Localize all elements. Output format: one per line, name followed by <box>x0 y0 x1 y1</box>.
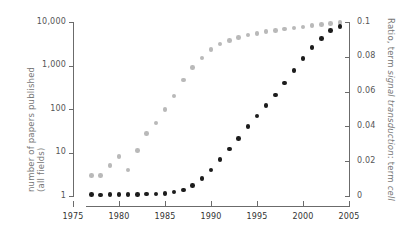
x-axis-tick-label: 2000 <box>291 212 315 221</box>
data-point <box>98 193 103 198</box>
data-point <box>154 192 159 197</box>
y-axis-right-tick-label: 0 <box>357 191 362 200</box>
y-axis-right-title-part-c: : term <box>386 156 396 186</box>
data-point <box>144 131 149 136</box>
data-point <box>328 28 333 33</box>
data-point <box>338 24 343 29</box>
data-point <box>273 93 278 98</box>
y-axis-right-tick <box>345 22 350 23</box>
data-point <box>255 31 260 36</box>
data-point <box>319 36 324 41</box>
data-point <box>126 192 131 197</box>
data-point <box>218 42 223 47</box>
data-point <box>227 38 232 43</box>
data-point <box>89 192 94 197</box>
data-point <box>236 35 241 40</box>
data-point <box>310 45 315 50</box>
data-point <box>319 22 324 27</box>
x-axis-tick <box>211 201 212 207</box>
x-axis-tick-label: 1990 <box>199 212 223 221</box>
data-point <box>227 147 232 152</box>
y-axis-left-title: number of papers published <box>26 12 36 192</box>
data-point <box>246 33 251 38</box>
data-point <box>310 23 315 28</box>
chart-figure: 1101001,00010,000number of papers publis… <box>0 0 419 237</box>
x-axis-tick <box>257 201 258 207</box>
x-axis-tick <box>349 201 350 207</box>
data-point <box>117 154 122 159</box>
data-point <box>328 21 333 26</box>
data-point <box>209 47 214 52</box>
y-axis-left-tick-label: 1,000 <box>42 60 66 69</box>
data-point <box>181 78 186 83</box>
data-point <box>218 157 223 162</box>
y-axis-left-tick-label: 10,000 <box>37 17 66 26</box>
y-axis-left-tick-label: 100 <box>50 104 66 113</box>
data-point <box>200 176 205 181</box>
data-point <box>292 68 297 73</box>
data-point <box>190 183 195 188</box>
data-point <box>154 121 159 126</box>
data-point <box>264 29 269 34</box>
y-axis-right <box>349 22 350 197</box>
data-point <box>255 114 260 119</box>
y-axis-left-tick <box>69 22 74 23</box>
data-point <box>108 192 113 197</box>
y-axis-right-tick <box>345 161 350 162</box>
data-point <box>282 81 287 86</box>
y-axis-right-tick-label: 0.02 <box>357 156 376 165</box>
data-point <box>117 192 122 197</box>
y-axis-left-tick <box>69 109 74 110</box>
x-axis-tick <box>303 201 304 207</box>
y-axis-right-tick <box>345 196 350 197</box>
data-point <box>282 27 287 32</box>
data-point <box>135 192 140 197</box>
y-axis-right-tick <box>345 57 350 58</box>
data-point <box>89 173 94 178</box>
x-axis-tick-label: 1995 <box>245 212 269 221</box>
y-axis-right-tick <box>345 92 350 93</box>
x-axis-tick <box>119 201 120 207</box>
y-axis-left-tick-label: 1 <box>61 191 66 200</box>
y-axis-right-tick-label: 0.06 <box>357 86 376 95</box>
data-point <box>209 168 214 173</box>
x-axis-tick <box>73 201 74 207</box>
data-point <box>144 192 149 197</box>
y-axis-left-tick-label: 10 <box>55 147 66 156</box>
data-point <box>135 148 140 153</box>
y-axis-left-tick <box>69 196 74 197</box>
data-point <box>108 163 113 168</box>
y-axis-right-title: Ratio, term signal transduction: term ce… <box>386 18 396 201</box>
data-point <box>301 25 306 30</box>
y-axis-left-title-sub: (all fields) <box>36 148 46 192</box>
x-axis-tick-label: 1975 <box>61 212 85 221</box>
y-axis-right-title-part-a: Ratio, term <box>386 18 396 71</box>
data-point <box>172 94 177 99</box>
y-axis-right-title-part-d: cell <box>386 186 396 201</box>
data-point <box>236 136 241 141</box>
data-point <box>98 173 103 178</box>
data-point <box>200 56 205 61</box>
x-axis-tick <box>165 201 166 207</box>
y-axis-left-tick <box>69 153 74 154</box>
y-axis-left-tick <box>69 66 74 67</box>
data-point <box>301 56 306 61</box>
y-axis-right-tick <box>345 126 350 127</box>
data-point <box>172 190 177 195</box>
data-point <box>190 65 195 70</box>
y-axis-right-title-part-b: signal transduction <box>386 71 396 156</box>
x-axis-tick-label: 1985 <box>153 212 177 221</box>
y-axis-right-tick-label: 0.1 <box>357 17 370 26</box>
data-point <box>246 124 251 129</box>
data-point <box>292 26 297 31</box>
y-axis-right-tick-label: 0.08 <box>357 51 376 60</box>
data-point <box>264 103 269 108</box>
x-axis <box>86 206 349 207</box>
data-point <box>126 168 131 173</box>
data-point <box>163 191 168 196</box>
plot-area <box>0 0 419 237</box>
data-point <box>181 188 186 193</box>
x-axis-tick-label: 1980 <box>107 212 131 221</box>
y-axis-right-tick-label: 0.04 <box>357 121 376 130</box>
x-axis-tick-label: 2005 <box>337 212 361 221</box>
